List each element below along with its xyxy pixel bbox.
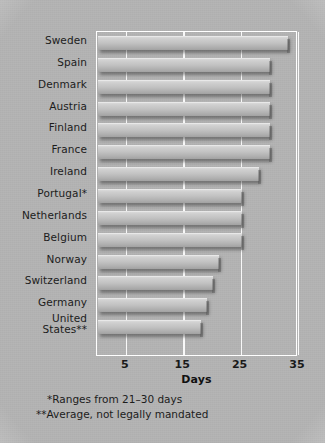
bar [98, 211, 242, 225]
x-tick-label-35: 35 [289, 358, 304, 371]
category-label: Spain [0, 57, 87, 68]
bar [98, 58, 270, 72]
footnote-ranges: *Ranges from 21–30 days [33, 392, 293, 407]
x-tick-label-15: 15 [174, 358, 189, 371]
category-label: Norway [0, 254, 87, 265]
category-label: Finland [0, 122, 87, 133]
bar [98, 167, 259, 181]
category-axis-labels: SwedenSpainDenmarkAustriaFinlandFranceIr… [0, 30, 92, 336]
bar [98, 298, 207, 312]
x-tick-label-25: 25 [232, 358, 247, 371]
category-label: Ireland [0, 166, 87, 177]
category-label-line2: States** [0, 324, 87, 335]
category-label: Sweden [0, 35, 87, 46]
category-label: Netherlands [0, 210, 87, 221]
plot-area [96, 31, 297, 356]
category-label: Portugal* [0, 188, 87, 199]
x-axis-title: Days [96, 373, 297, 386]
category-label: France [0, 144, 87, 155]
x-axis-tick-labels: 5152535 [96, 358, 297, 374]
bar [98, 255, 219, 269]
bar-series [97, 32, 296, 355]
category-label: Denmark [0, 79, 87, 90]
bar [98, 36, 288, 50]
bar [98, 233, 242, 247]
bar [98, 102, 270, 116]
bar [98, 123, 270, 137]
category-label: UnitedStates** [0, 313, 87, 335]
bar [98, 276, 213, 290]
bar [98, 189, 242, 203]
chart-figure: SwedenSpainDenmarkAustriaFinlandFranceIr… [0, 0, 325, 443]
category-label: Switzerland [0, 275, 87, 286]
category-label: Austria [0, 101, 87, 112]
footnote-average: **Average, not legally mandated [33, 407, 293, 422]
category-label: Belgium [0, 232, 87, 243]
bar [98, 145, 270, 159]
bar [98, 80, 270, 94]
category-label: Germany [0, 297, 87, 308]
x-tick-label-5: 5 [121, 358, 129, 371]
footnotes: *Ranges from 21–30 days **Average, not l… [33, 392, 293, 421]
gridline-35 [298, 32, 299, 355]
bar [98, 320, 201, 334]
